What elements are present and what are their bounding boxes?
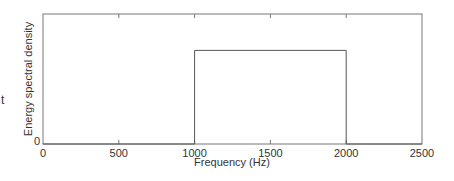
- x-tick-label: 500: [110, 147, 128, 159]
- x-tick-label: 2500: [410, 147, 434, 159]
- chart: 05001000150020002500 0 Frequency (Hz) En…: [0, 0, 454, 181]
- y-axis-label: Energy spectral density: [22, 21, 34, 136]
- spectral-density-line: [43, 50, 422, 144]
- x-tick-label: 2000: [334, 147, 358, 159]
- axes-frame: [43, 14, 422, 144]
- x-tick-label: 0: [40, 147, 46, 159]
- x-axis-label: Frequency (Hz): [194, 156, 270, 168]
- y-tick-labels: 0: [34, 135, 40, 147]
- y-tick-label: 0: [34, 135, 40, 147]
- tick-marks: [119, 14, 346, 144]
